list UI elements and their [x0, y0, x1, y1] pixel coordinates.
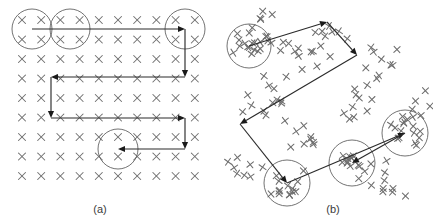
segment-a-2-head — [182, 70, 188, 77]
x-mark — [115, 75, 122, 82]
segment-a-4-head — [48, 111, 54, 118]
x-mark — [38, 134, 45, 141]
x-mark — [153, 173, 160, 180]
x-mark — [248, 51, 255, 58]
x-mark — [383, 157, 390, 164]
x-mark — [191, 114, 198, 121]
x-mark — [191, 75, 198, 82]
x-mark — [153, 153, 160, 160]
x-mark — [231, 164, 238, 171]
x-mark — [191, 173, 198, 180]
x-mark — [95, 36, 102, 43]
panel-a-scan-path — [32, 26, 188, 152]
x-mark — [153, 75, 160, 82]
x-mark — [284, 182, 291, 189]
x-mark — [364, 108, 370, 114]
x-mark — [247, 161, 254, 168]
x-mark — [172, 36, 179, 43]
x-mark — [172, 173, 179, 180]
x-mark — [261, 73, 268, 80]
x-mark — [191, 17, 198, 24]
x-mark — [387, 121, 394, 128]
segment-b-2 — [327, 22, 352, 50]
panel-a-grid-marks — [19, 17, 199, 180]
x-mark — [402, 193, 408, 199]
x-mark — [225, 158, 232, 165]
x-mark — [115, 153, 122, 160]
x-mark — [19, 75, 26, 82]
x-mark — [38, 114, 45, 121]
x-mark — [416, 135, 422, 141]
x-mark — [153, 56, 160, 63]
segment-b-1 — [249, 24, 320, 46]
panel-b-caption: (b) — [326, 203, 339, 215]
x-mark — [356, 175, 362, 181]
x-mark — [349, 103, 356, 110]
x-mark — [19, 56, 26, 63]
x-mark — [19, 153, 26, 160]
x-mark — [134, 75, 141, 82]
figure-container: (a) (b) — [0, 0, 433, 224]
segment-a-5-head — [178, 115, 185, 121]
x-mark — [301, 141, 308, 148]
panel-b-tour-path — [240, 21, 405, 183]
x-mark — [277, 47, 283, 53]
x-mark — [115, 134, 122, 141]
x-mark — [257, 46, 263, 52]
x-mark — [95, 173, 102, 180]
segment-b-5 — [287, 136, 399, 183]
x-mark — [363, 65, 369, 71]
x-mark — [115, 173, 122, 180]
x-mark — [153, 95, 160, 102]
x-mark — [38, 95, 45, 102]
x-mark — [95, 56, 102, 63]
x-mark — [38, 75, 45, 82]
x-mark — [282, 117, 289, 124]
x-mark — [417, 128, 423, 134]
x-mark — [76, 153, 83, 160]
x-mark — [76, 95, 83, 102]
x-mark — [38, 153, 45, 160]
x-mark — [191, 153, 198, 160]
x-mark — [283, 73, 290, 80]
x-mark — [172, 75, 179, 82]
segment-b-3-head — [240, 118, 248, 124]
x-mark — [19, 114, 26, 121]
x-mark — [19, 134, 26, 141]
x-mark — [378, 56, 385, 63]
figure-canvas: (a) (b) — [0, 0, 433, 224]
x-mark — [172, 153, 179, 160]
x-mark — [191, 95, 198, 102]
x-mark — [115, 17, 122, 24]
x-mark — [317, 43, 323, 49]
x-mark — [271, 86, 277, 92]
x-mark — [76, 75, 83, 82]
x-mark — [76, 17, 83, 24]
panel-b-scatter-marks — [225, 8, 433, 199]
x-mark — [191, 134, 198, 141]
x-mark — [413, 142, 419, 148]
x-mark — [153, 17, 160, 24]
x-mark — [273, 173, 279, 179]
x-mark — [295, 45, 301, 51]
x-mark — [134, 95, 141, 102]
x-mark — [134, 17, 141, 24]
x-mark — [172, 56, 179, 63]
x-mark — [134, 36, 141, 43]
x-mark — [380, 185, 386, 191]
x-mark — [269, 11, 275, 17]
x-mark — [76, 36, 83, 43]
x-mark — [95, 75, 102, 82]
x-mark — [38, 36, 45, 43]
x-mark — [353, 92, 359, 98]
x-mark — [314, 63, 321, 70]
x-mark — [247, 173, 254, 180]
x-mark — [57, 36, 64, 43]
segment-b-6 — [358, 133, 405, 160]
x-mark — [244, 92, 251, 99]
segment-a-7-head — [118, 146, 125, 152]
x-mark — [115, 95, 122, 102]
x-mark — [76, 173, 83, 180]
segment-a-3-head — [51, 74, 58, 80]
x-mark — [364, 82, 371, 89]
